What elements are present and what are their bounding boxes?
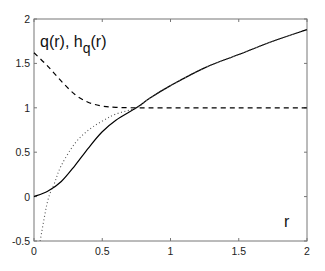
y-tick-label: 0 [24,191,30,203]
x-tick-label: 0.5 [95,245,110,257]
y-tick-label: -0.5 [12,235,30,247]
x-tick-label: 1 [168,245,174,257]
x-tick-label: 0 [31,245,37,257]
plot-area [34,19,307,241]
x-tick-label: 1.5 [231,245,246,257]
x-tick-label: 2 [304,245,310,257]
y-tick-label: 1.5 [15,57,30,69]
y-tick-label: 1 [24,102,30,114]
line-chart: 00.511.52-0.500.511.52 q(r), hq(r) r [0,0,325,271]
y-tick-label: 0.5 [15,146,30,158]
x-axis-label: r [284,213,290,230]
y-tick-label: 2 [24,13,30,25]
